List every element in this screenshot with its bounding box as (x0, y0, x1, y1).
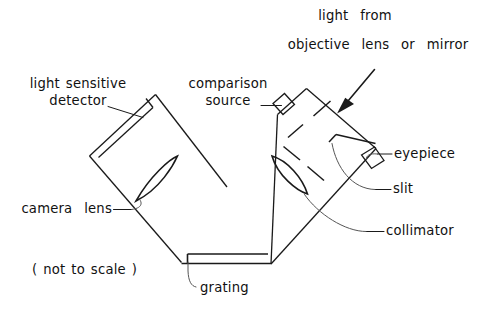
right-tube-outer-side (307, 89, 377, 149)
camera-lens (136, 156, 178, 201)
eyepiece-box (362, 147, 385, 169)
camera-lens-body (136, 156, 178, 201)
label-comparison-source-line1: comparison (178, 76, 278, 92)
right-tube-outer-side-lower (271, 149, 376, 265)
light-path-dashed (284, 101, 331, 181)
label-light-from: light from (292, 8, 418, 24)
slit-stem (329, 135, 336, 143)
collimator-lens-body (272, 156, 308, 194)
slit (329, 135, 376, 144)
right-tube-inner-side-upper (271, 115, 278, 265)
incoming-light-arrow (339, 70, 375, 112)
leader-collimator-curve (305, 195, 367, 232)
label-not-to-scale: ( not to scale ) (32, 262, 137, 278)
label-eyepiece: eyepiece (394, 146, 455, 162)
label-light-sensitive-detector-line1: light sensitive (22, 76, 134, 92)
left-arm-tube (90, 95, 228, 263)
dash-1 (314, 101, 331, 116)
collimator-lens (272, 156, 308, 194)
label-light-sensitive-detector-line2: detector (22, 93, 134, 109)
leader-lines (108, 106, 392, 288)
label-collimator: collimator (386, 223, 454, 239)
right-arm-tube (271, 89, 376, 265)
leader-grating (188, 262, 196, 287)
label-camera-lens: camera lens (6, 201, 112, 217)
label-slit: slit (393, 181, 413, 197)
slit-line (336, 135, 376, 144)
dash-3 (284, 147, 301, 161)
label-comparison-source-line2: source (178, 93, 278, 109)
eyepiece (362, 147, 385, 169)
label-grating: grating (200, 280, 249, 296)
diagram-canvas: light from objective lens or mirror ligh… (0, 0, 482, 315)
detector-plate-line (99, 108, 154, 158)
grating (182, 254, 272, 264)
label-objective-lens-or-mirror: objective lens or mirror (278, 37, 478, 53)
dash-2 (288, 125, 303, 138)
arrow-head (339, 99, 353, 112)
dash-4 (308, 167, 325, 181)
